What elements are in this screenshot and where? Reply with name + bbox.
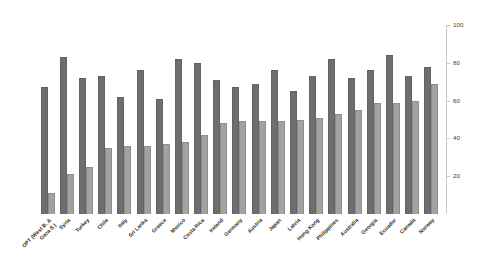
x-axis-tick-label-line: Austria [246, 217, 263, 234]
x-label-slot: OPT (West B. &Gaza S.) [38, 216, 57, 267]
bar-series-2 [144, 146, 151, 214]
x-axis-tick-label: Japan [267, 217, 283, 233]
x-axis-tick-label-line: Ireland [208, 217, 225, 234]
bar-series-1 [156, 99, 163, 214]
bar-series-2 [105, 148, 112, 214]
bar-series-1 [328, 59, 335, 214]
bar-series-1 [386, 55, 393, 214]
x-axis-tick-label: OPT (West B. &Gaza S.) [20, 217, 57, 254]
x-axis-tick-label: Turkey [74, 217, 91, 234]
bar-series-1 [424, 67, 431, 214]
bar-series-2 [201, 135, 208, 214]
bar-series-2 [182, 142, 189, 214]
x-axis-tick-label: Latvia [286, 217, 302, 233]
bar-series-2 [220, 123, 227, 214]
bar-series-1 [137, 70, 144, 214]
x-axis-tick-label: Ireland [208, 217, 225, 234]
bar-series-2 [239, 121, 246, 214]
bar-series-1 [98, 76, 105, 214]
x-label-slot: Norway [422, 216, 441, 267]
y-tick-label: 40 [453, 135, 460, 141]
bar-series-2 [316, 118, 323, 214]
x-label-slot: Ireland [211, 216, 230, 267]
y-tick-label: 80 [453, 60, 460, 66]
x-label-slot: Australia [345, 216, 364, 267]
bar-group [287, 25, 306, 214]
x-label-slot: Costa Rica [192, 216, 211, 267]
bar-group [403, 25, 422, 214]
x-axis-tick-label: Chile [96, 217, 110, 231]
bar-series-1 [252, 84, 259, 214]
bar-series-2 [163, 144, 170, 214]
bar-group [172, 25, 191, 214]
bar-group [76, 25, 95, 214]
bar-series-2 [48, 193, 55, 214]
bar-group [268, 25, 287, 214]
bar-group [192, 25, 211, 214]
bar-series-1 [271, 70, 278, 214]
bar-series-2 [124, 146, 131, 214]
x-axis-tick-label: Austria [246, 217, 264, 235]
bar-group [38, 25, 57, 214]
bar-series-2 [431, 84, 438, 214]
bar-group [96, 25, 115, 214]
bar-series-2 [67, 174, 74, 214]
bar-series-1 [405, 76, 412, 214]
bar-series-1 [348, 78, 355, 214]
x-label-slot: Canada [403, 216, 422, 267]
x-label-slot: Sri Lanka [134, 216, 153, 267]
bar-series-2 [297, 120, 304, 215]
bar-series-2 [259, 121, 266, 214]
bar-group [422, 25, 441, 214]
x-axis-tick-label-line: Latvia [286, 217, 301, 232]
x-label-slot: Ecuador [383, 216, 402, 267]
x-axis-tick-label: Greece [150, 217, 167, 234]
y-tick-label: 20 [453, 173, 460, 179]
y-axis-line [446, 25, 447, 214]
bar-group [134, 25, 153, 214]
y-tick [446, 63, 450, 64]
bar-group [57, 25, 76, 214]
bar-series-1 [213, 80, 220, 214]
y-tick-label: 60 [453, 97, 460, 103]
x-label-slot: Philippines [326, 216, 345, 267]
x-axis-tick-label-line: Italy [117, 217, 129, 229]
x-label-slot: Austria [249, 216, 268, 267]
x-label-slot: Japan [268, 216, 287, 267]
bar-series-2 [412, 101, 419, 214]
bar-series-1 [175, 59, 182, 214]
bars-layer [38, 25, 441, 214]
y-tick [446, 176, 450, 177]
x-label-slot: Latvia [287, 216, 306, 267]
x-label-slot: Georgia [364, 216, 383, 267]
bar-series-1 [232, 87, 239, 214]
y-axis: 20406080100 [446, 20, 486, 219]
bar-group [249, 25, 268, 214]
bar-group [153, 25, 172, 214]
bar-series-2 [393, 103, 400, 215]
x-label-slot: Syria [57, 216, 76, 267]
x-label-slot: Chile [96, 216, 115, 267]
x-axis-tick-label-line: Chile [96, 217, 109, 230]
x-label-slot: Turkey [76, 216, 95, 267]
bar-series-2 [374, 103, 381, 215]
bar-series-1 [117, 97, 124, 214]
x-label-slot: Mexico [172, 216, 191, 267]
bar-group [307, 25, 326, 214]
x-axis-tick-label: Mexico [169, 217, 186, 234]
x-axis-tick-label: Syria [58, 217, 72, 231]
x-label-slot: Hong Kong [307, 216, 326, 267]
x-axis-tick-label: Italy [117, 217, 129, 229]
x-label-slot: Germany [230, 216, 249, 267]
bar-group [364, 25, 383, 214]
bar-group [326, 25, 345, 214]
x-axis-labels: OPT (West B. &Gaza S.)SyriaTurkeyChileIt… [38, 216, 441, 267]
bar-series-2 [278, 121, 285, 214]
bar-series-1 [367, 70, 374, 214]
x-axis-tick-label-line: Turkey [74, 217, 90, 233]
bar-series-1 [194, 63, 201, 214]
x-label-slot: Greece [153, 216, 172, 267]
y-tick-label: 100 [453, 22, 463, 28]
bar-group [211, 25, 230, 214]
x-axis-tick-label-line: Greece [150, 217, 167, 234]
